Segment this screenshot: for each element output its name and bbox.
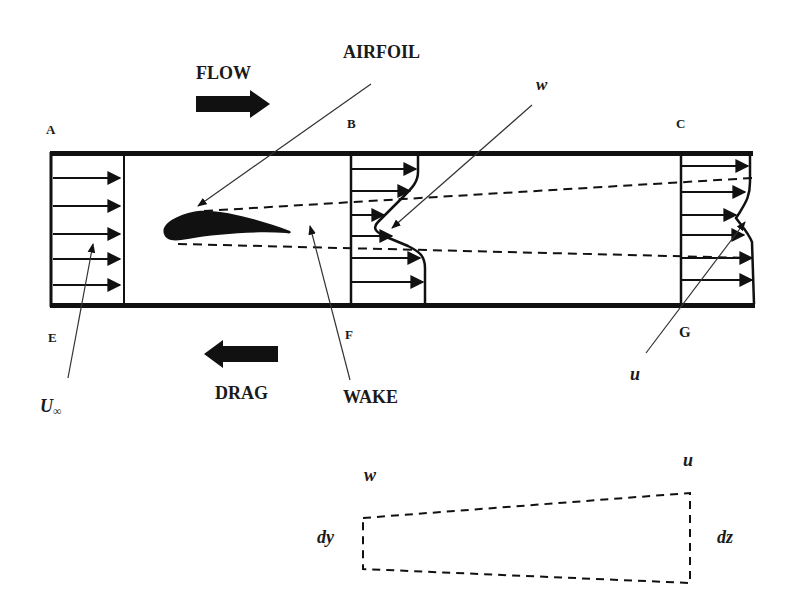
- station-f-label: F: [345, 327, 353, 342]
- station-b-label: B: [347, 116, 356, 131]
- wake-profile-cg: [736, 154, 754, 304]
- wake-lower-boundary: [178, 244, 752, 258]
- control-volume-outline: [363, 493, 690, 583]
- station-c-label: C: [676, 116, 685, 131]
- u-inf-leader-line: [68, 244, 93, 378]
- airfoil-shape: [163, 211, 290, 241]
- flow-direction-arrow: [196, 90, 270, 118]
- station-e-label: E: [48, 330, 57, 345]
- u-label: u: [630, 364, 640, 384]
- w-label: w: [536, 75, 548, 94]
- station-a-label: A: [46, 122, 56, 137]
- u-infinity-subscript: ∞: [53, 404, 62, 418]
- wake-upper-boundary: [204, 178, 752, 211]
- freestream-velocity-arrows: [53, 178, 120, 285]
- flow-label: FLOW: [196, 63, 251, 83]
- wake-survey-diagram: FLOW AIRFOIL w A B C E F G DRAG WAKE u U…: [0, 0, 793, 613]
- cv-w-label: w: [364, 465, 377, 485]
- u-infinity-base: U: [40, 396, 54, 416]
- tunnel-bottom-wall: [50, 303, 755, 308]
- station-g-label: G: [679, 324, 691, 340]
- w-leader-line: [392, 105, 532, 228]
- wake-label: WAKE: [343, 387, 398, 407]
- cv-u-label: u: [683, 450, 693, 470]
- cv-dy-label: dy: [317, 527, 335, 547]
- wake-velocity-arrows-cg: [682, 166, 752, 280]
- u-leader-line: [646, 222, 745, 353]
- tunnel-top-wall: [50, 151, 753, 156]
- drag-direction-arrow: [204, 340, 278, 368]
- airfoil-label: AIRFOIL: [343, 42, 420, 62]
- cv-dz-label: dz: [717, 527, 733, 547]
- control-volume-element: w u dy dz: [317, 450, 733, 583]
- drag-label: DRAG: [215, 383, 268, 403]
- u-infinity-label: U ∞: [40, 396, 62, 418]
